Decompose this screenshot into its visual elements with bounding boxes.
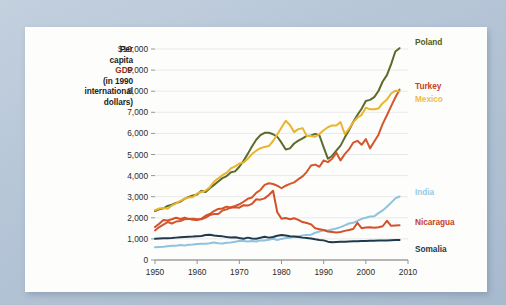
figure-root: Per capita GDP (in 1990 international do… [0, 0, 506, 305]
data-series-lines [155, 48, 400, 247]
legend-label-turkey: Turkey [415, 81, 441, 91]
legend-label-poland: Poland [415, 37, 442, 47]
y-tick-label: 4,000 [127, 171, 148, 181]
legend-label-somalia: Somalia [415, 244, 446, 254]
y-tick-label: 7,000 [127, 107, 148, 117]
y-tick-label: 1,000 [127, 234, 148, 244]
series-line-india [155, 196, 400, 247]
y-axis-tick-labels: 01,0002,0003,0004,0005,0006,0007,0008,00… [118, 44, 155, 265]
y-tick-label: 5,000 [127, 150, 148, 160]
x-tick-label: 1980 [272, 267, 291, 277]
x-axis-tick-labels: 1950196019701980199020002010 [146, 260, 418, 277]
y-tick-label: 8,000 [127, 86, 148, 96]
x-tick-label: 1970 [230, 267, 249, 277]
legend-label-nicaragua: Nicaragua [415, 217, 455, 227]
x-tick-label: 2000 [357, 267, 376, 277]
chart-card: Per capita GDP (in 1990 international do… [25, 27, 487, 292]
x-tick-label: 2010 [399, 267, 418, 277]
x-tick-label: 1990 [314, 267, 333, 277]
x-tick-label: 1960 [188, 267, 207, 277]
legend-label-india: India [415, 187, 434, 197]
x-tick-label: 1950 [146, 267, 165, 277]
y-tick-label: 3,000 [127, 192, 148, 202]
y-tick-label: 6,000 [127, 128, 148, 138]
y-tick-label: 2,000 [127, 213, 148, 223]
y-tick-label: 9,000 [127, 65, 148, 75]
y-tick-label: 0 [143, 255, 148, 265]
legend-label-mexico: Mexico [415, 94, 443, 104]
y-tick-label: $10,000 [118, 44, 148, 54]
series-line-mexico [155, 91, 400, 210]
